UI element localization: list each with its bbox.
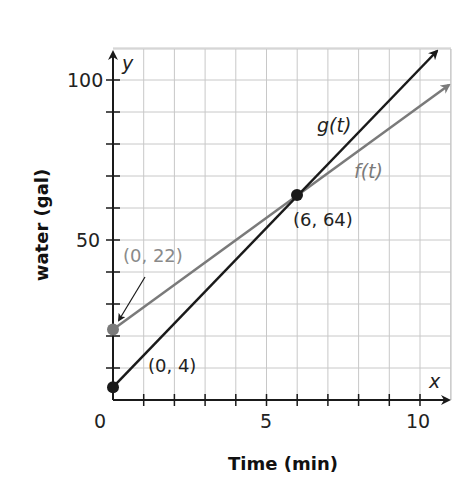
axes: [106, 52, 449, 406]
x-axis-title: Time (min): [228, 453, 338, 474]
f-label: f(t): [354, 160, 383, 182]
label-0-4: (0, 4): [148, 355, 196, 376]
x-tick-label-5: 5: [260, 410, 272, 432]
chart-svg: y x 100 50 0 5 10 Time (min) water (gal)…: [0, 0, 463, 500]
y-axis-variable: y: [121, 52, 134, 74]
y-axis-title: water (gal): [31, 169, 52, 281]
g-label: g(t): [317, 114, 351, 136]
point-0-4: [107, 381, 119, 393]
chart: y x 100 50 0 5 10 Time (min) water (gal)…: [0, 0, 463, 500]
g-line: [113, 51, 437, 387]
x-tick-label-10: 10: [406, 410, 430, 432]
x-axis-variable: x: [428, 370, 441, 392]
y-tick-label-100: 100: [67, 69, 103, 91]
label-0-22: (0, 22): [123, 245, 183, 266]
label-6-64: (6, 64): [293, 209, 353, 230]
annotation-arrow: [119, 277, 145, 320]
grid: [113, 48, 451, 400]
f-line: [113, 85, 449, 330]
x-tick-label-0: 0: [94, 410, 106, 432]
point-0-22: [107, 324, 119, 336]
point-6-64: [291, 189, 303, 201]
y-tick-label-50: 50: [76, 229, 100, 251]
